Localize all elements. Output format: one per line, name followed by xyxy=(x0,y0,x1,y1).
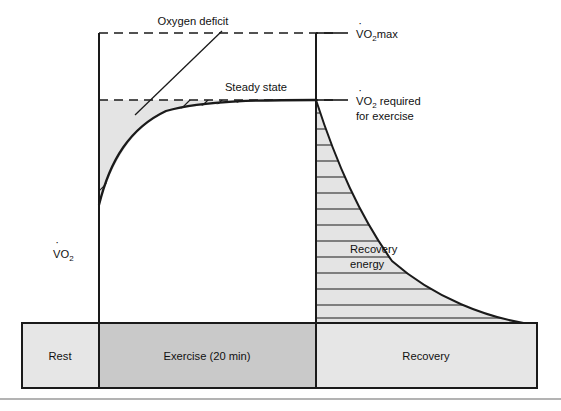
vo2-required-label: · VO2 required for exercise xyxy=(356,84,421,122)
recovery-energy-label-line1: Recovery xyxy=(350,243,398,255)
oxygen-deficit-label: Oxygen deficit xyxy=(158,15,230,27)
vo2-required-text-line1: VO2 required xyxy=(356,95,421,110)
recovery-energy-label-line2: energy xyxy=(350,258,385,270)
recovery-energy-fill xyxy=(316,100,537,325)
steady-state-label: Steady state xyxy=(225,81,287,93)
phase-band xyxy=(22,323,537,388)
vo2-required-text-line2: for exercise xyxy=(356,110,414,122)
y-axis-label: · VO2 xyxy=(53,236,74,263)
vo2max-label: · VO2max xyxy=(356,17,398,43)
y-axis-text: VO2 xyxy=(53,248,74,263)
figure-root: Oxygen deficit Steady state · VO2max · V… xyxy=(0,0,561,411)
phase-label-exercise: Exercise (20 min) xyxy=(163,350,250,362)
y-axis-dot-accent: · xyxy=(55,236,59,248)
phase-label-recovery: Recovery xyxy=(402,350,450,362)
phase-label-rest: Rest xyxy=(48,350,72,362)
vo2max-text: VO2max xyxy=(356,28,398,43)
oxygen-deficit-fill xyxy=(99,100,316,205)
diagram-canvas: Oxygen deficit Steady state · VO2max · V… xyxy=(0,0,561,411)
recovery-energy-region xyxy=(316,100,545,325)
